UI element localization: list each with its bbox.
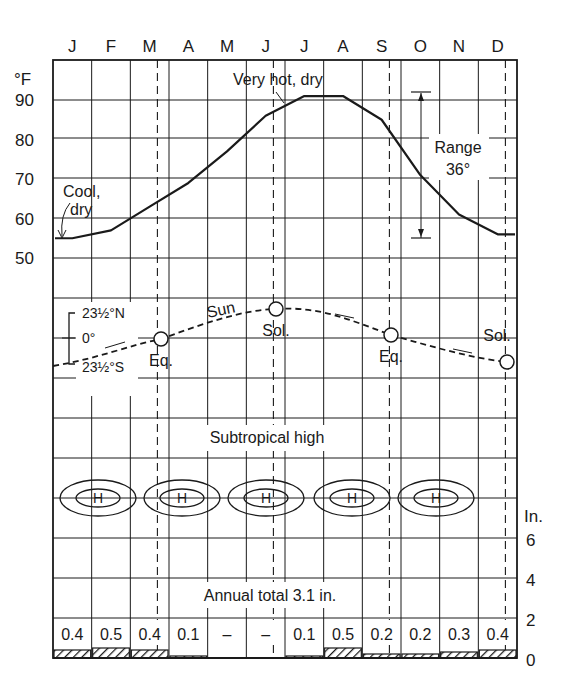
precip-bar (479, 650, 516, 658)
precip-tick-label: 6 (526, 531, 535, 550)
precip-value: 0.5 (332, 626, 354, 643)
temperature-axis: °F9080706050 (14, 70, 34, 268)
precip-value: 0.3 (448, 626, 470, 643)
month-label: M (143, 37, 157, 56)
precip-tick-label: 4 (526, 571, 535, 590)
sun-position-marker (154, 332, 168, 346)
temp-tick-label: 70 (15, 170, 34, 189)
precip-value: – (261, 626, 270, 643)
range-arrow-down (418, 229, 424, 237)
precip-value: 0.1 (177, 626, 199, 643)
subtropical-high-label: Subtropical high (210, 429, 325, 446)
range-arrow-up (418, 93, 424, 101)
precip-bar (131, 650, 168, 658)
month-label: A (183, 37, 195, 56)
temp-tick-label: 50 (15, 249, 34, 268)
sun-position-marker (500, 355, 514, 369)
temp-unit-label: °F (14, 70, 31, 89)
month-label: J (300, 37, 309, 56)
lat-north-label: 23½°N (82, 305, 125, 321)
month-label: J (68, 37, 77, 56)
high-symbol: H (261, 490, 271, 506)
month-label: A (337, 37, 349, 56)
hot-label: Very hot, dry (233, 71, 323, 88)
precip-value: 0.5 (100, 626, 122, 643)
precip-unit-label: In. (524, 507, 543, 526)
direction-arrow (453, 349, 472, 353)
equinox-label: Eq. (379, 348, 403, 365)
dry-label: dry (70, 201, 92, 218)
lat-zero-label: 0° (82, 330, 95, 346)
range-value: 36° (446, 161, 470, 178)
lat-south-label: 23½°S (82, 359, 124, 375)
precip-value: 0.4 (139, 626, 161, 643)
sun-path: 23½°N0°23½°SSunEq.Sol.Eq.Sol. (53, 298, 514, 396)
temp-tick-label: 80 (15, 131, 34, 150)
month-label: F (106, 37, 116, 56)
month-label: D (492, 37, 504, 56)
solstice-label: Sol. (262, 322, 290, 339)
month-label: O (414, 37, 427, 56)
precip-tick-label: 2 (526, 611, 535, 630)
precip-bar (325, 648, 362, 658)
sun-position-marker (269, 302, 283, 316)
precip-value: 0.4 (487, 626, 509, 643)
precip-value: 0.4 (61, 626, 83, 643)
precipitation-axis: In.6420 (524, 507, 543, 670)
high-symbol: H (431, 490, 441, 506)
precip-bar (93, 648, 130, 658)
annual-total-label: Annual total 3.1 in. (204, 587, 337, 604)
subtropical-high-cells: Subtropical highHHHHH (60, 425, 474, 516)
sun-position-marker (384, 328, 398, 342)
precip-value: 0.2 (409, 626, 431, 643)
temp-tick-label: 60 (15, 210, 34, 229)
high-symbol: H (347, 490, 357, 506)
month-label: J (261, 37, 270, 56)
precip-value: – (223, 626, 232, 643)
month-labels: JFMAMJJASOND (68, 37, 504, 56)
cool-label: Cool, (63, 183, 100, 200)
range-label: Range (434, 139, 481, 156)
temp-tick-label: 90 (15, 91, 34, 110)
high-symbol: H (93, 490, 103, 506)
sun-label: Sun (205, 298, 236, 321)
month-label: S (376, 37, 387, 56)
month-label: N (453, 37, 465, 56)
hot-arrow (276, 92, 284, 103)
precip-bar (54, 650, 91, 658)
precip-tick-label: 0 (526, 651, 535, 670)
month-label: M (220, 37, 234, 56)
precip-value: 0.2 (371, 626, 393, 643)
solstice-label: Sol. (483, 327, 511, 344)
climate-chart: JFMAMJJASOND °F9080706050 Cool,dryVery h… (0, 0, 570, 689)
high-symbol: H (177, 490, 187, 506)
precip-value: 0.1 (293, 626, 315, 643)
equinox-label: Eq. (149, 352, 173, 369)
